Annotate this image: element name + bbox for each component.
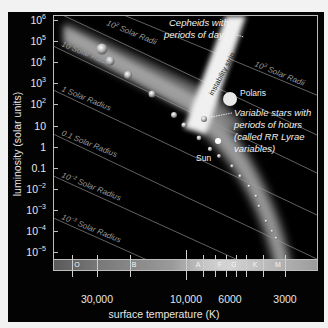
y-tick-label: 1 — [40, 141, 46, 153]
svg-text:10−2 Solar Radius: 10−2 Solar Radius — [60, 170, 122, 203]
sun-star — [215, 138, 221, 144]
x-tick — [72, 255, 73, 277]
spectral-class-f: F — [218, 260, 222, 270]
x-tick — [226, 255, 227, 277]
svg-text:1 Solar Radius: 1 Solar Radius — [60, 85, 112, 113]
y-tick-label: 10−5 — [26, 246, 46, 258]
y-tick-label: 0.1 — [31, 162, 46, 174]
y-tick — [53, 41, 58, 42]
cepheids-label-1: Cepheids with — [169, 17, 229, 28]
rr-lyrae-label-2: periods of hours — [233, 119, 302, 130]
spectral-class-o: O — [74, 260, 79, 270]
x-tick — [97, 255, 98, 277]
svg-text:103 Solar Radii: 103 Solar Radii — [253, 59, 306, 88]
y-tick — [53, 252, 58, 253]
x-tick — [263, 255, 264, 277]
plot-area: 103 Solar Radii 102 Solar Radii 10 Solar… — [53, 15, 318, 271]
x-tick-label: 6000 — [218, 293, 241, 305]
rr-lyrae-label-4: variables) — [234, 143, 275, 154]
polaris-star — [223, 92, 237, 106]
spectral-class-m: M — [275, 260, 281, 270]
spectral-class-a: A — [196, 260, 201, 270]
x-tick — [215, 255, 216, 277]
x-tick-label: 3000 — [273, 293, 296, 305]
spectral-class-k: K — [253, 260, 258, 270]
x-tick-label: 30,000 — [81, 293, 113, 305]
y-tick — [53, 168, 58, 169]
y-tick — [53, 20, 58, 21]
y-tick-label: 102 — [30, 98, 46, 110]
y-axis-title: luminosity (solar units) — [11, 79, 23, 209]
y-tick — [53, 231, 58, 232]
y-tick — [53, 104, 58, 105]
x-tick — [130, 255, 131, 277]
y-tick — [53, 126, 58, 127]
y-tick-label: 103 — [30, 77, 46, 89]
x-axis-title: surface temperature (K) — [0, 308, 328, 320]
x-tick — [285, 255, 286, 277]
polaris-label: Polaris — [240, 88, 266, 98]
y-tick — [53, 83, 58, 84]
x-tick — [186, 250, 187, 280]
y-tick-label: 104 — [30, 56, 46, 68]
hr-diagram-graphic: 103 Solar Radii 102 Solar Radii 10 Solar… — [54, 16, 318, 271]
svg-text:10−3 Solar Radius: 10−3 Solar Radius — [60, 212, 122, 245]
svg-text:0.1 Solar Radius: 0.1 Solar Radius — [60, 129, 118, 160]
x-tick — [246, 255, 247, 277]
x-tick — [236, 255, 237, 277]
y-tick-label: 105 — [30, 35, 46, 47]
sun-label: Sun — [196, 153, 211, 163]
y-tick-label: 106 — [30, 14, 46, 26]
y-tick-label: 10 — [34, 120, 46, 132]
spectral-class-b: B — [132, 260, 137, 270]
rr-lyrae-label-3: (called RR Lyrae — [234, 131, 305, 142]
y-tick-label: 10−2 — [26, 183, 46, 195]
svg-text:102 Solar Radii: 102 Solar Radii — [105, 18, 158, 47]
x-tick — [203, 255, 204, 277]
rr-lyrae-label-1: Variable stars with — [234, 107, 311, 118]
y-tick — [53, 62, 58, 63]
x-tick-label: 10,000 — [170, 293, 202, 305]
y-tick — [53, 189, 58, 190]
y-tick — [53, 147, 58, 148]
y-tick-label: 10−3 — [26, 204, 46, 216]
y-tick-label: 10−4 — [26, 225, 46, 237]
cepheids-label-2: periods of days — [163, 29, 229, 40]
y-tick — [53, 210, 58, 211]
